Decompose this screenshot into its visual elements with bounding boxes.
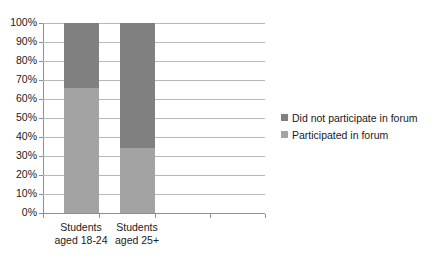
legend-label-did-not-participate: Did not participate in forum [292,112,417,124]
y-tick-label-70: 70% [0,74,37,85]
bar-segment-participated-25-plus [120,148,155,213]
x-category-label-25-plus-line2: aged 25+ [94,234,180,247]
x-tick-mark-3 [210,214,211,218]
bar-students-aged-18-24 [64,23,99,213]
y-tick-label-50: 50% [0,112,37,123]
x-category-label-25-plus-line1: Students [116,221,157,233]
y-tick-label-30: 30% [0,150,37,161]
bar-students-aged-25-plus [120,23,155,213]
y-tick-label-90: 90% [0,36,37,47]
chart-legend: Did not participate in forum Participate… [281,109,417,143]
y-tick-label-80: 80% [0,55,37,66]
stacked-bar-chart: 100% 90% 80% 70% 60% 50% 40% 30% 20% 10%… [0,0,439,259]
legend-swatch-did-not-participate [281,114,288,121]
x-tick-mark-4 [265,214,266,218]
y-tick-label-40: 40% [0,131,37,142]
x-tick-mark-1 [99,214,100,218]
x-tick-mark-0 [43,214,44,218]
plot-area [43,23,265,213]
legend-item-participated[interactable]: Participated in forum [281,126,417,143]
x-category-label-25-plus: Students aged 25+ [94,221,180,247]
legend-label-participated: Participated in forum [292,129,388,141]
y-tick-label-10: 10% [0,188,37,199]
bar-segment-participated-18-24 [64,88,99,213]
y-tick-label-0: 0% [0,207,37,218]
gridline-baseline-0 [43,213,265,214]
y-tick-label-100: 100% [0,17,37,28]
bar-segment-did-not-participate-25-plus [120,23,155,148]
y-tick-label-60: 60% [0,93,37,104]
bar-segment-did-not-participate-18-24 [64,23,99,88]
legend-item-did-not-participate[interactable]: Did not participate in forum [281,109,417,126]
legend-swatch-participated [281,131,288,138]
y-tick-label-20: 20% [0,169,37,180]
y-axis-labels: 100% 90% 80% 70% 60% 50% 40% 30% 20% 10%… [0,0,37,259]
x-tick-mark-2 [155,214,156,218]
